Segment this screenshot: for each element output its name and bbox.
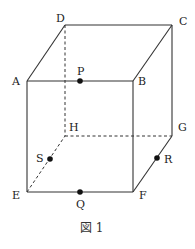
figure-caption: 図 1 (80, 221, 103, 235)
label-C: C (179, 15, 187, 28)
label-S: S (36, 152, 44, 165)
label-D: D (56, 12, 65, 25)
label-E: E (12, 189, 20, 202)
label-P: P (77, 65, 85, 78)
label-Q: Q (76, 198, 85, 211)
label-F: F (139, 189, 147, 202)
point-P-dot (77, 78, 83, 84)
label-H: H (69, 121, 79, 134)
visible-edges (27, 25, 172, 192)
label-A: A (11, 75, 21, 88)
point-S-dot (47, 156, 53, 162)
point-R-dot (154, 155, 160, 161)
edge-DA (27, 25, 65, 81)
cube-diagram: A B C D E F G H P Q R S 図 1 (0, 0, 195, 249)
point-labels: P Q R S (36, 65, 173, 211)
edge-EH (27, 136, 65, 192)
label-G: G (178, 121, 187, 134)
edge-BC (133, 25, 172, 81)
label-B: B (138, 75, 146, 88)
label-R: R (164, 153, 173, 166)
point-Q-dot (77, 189, 83, 195)
